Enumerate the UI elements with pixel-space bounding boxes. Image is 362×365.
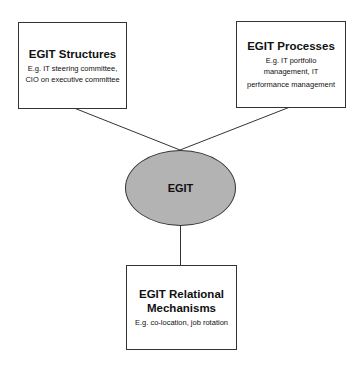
edge-processes-egit bbox=[180, 107, 290, 150]
node-egit-center: EGIT bbox=[125, 150, 236, 226]
node-egit-structures: EGIT Structures E.g. IT steering committ… bbox=[18, 22, 127, 109]
node-egit-processes: EGIT Processes E.g. IT portfolio managem… bbox=[236, 21, 346, 108]
node-subtitle: E.g. IT steering committee, CIO on execu… bbox=[25, 63, 119, 85]
subtitle-line: E.g. co-location, job rotation bbox=[135, 317, 228, 328]
subtitle-line: management, IT bbox=[247, 66, 335, 77]
node-title: EGIT Relational Mechanisms bbox=[139, 287, 224, 315]
subtitle-line: E.g. IT steering committee, bbox=[25, 63, 119, 74]
subtitle-line: performance management bbox=[247, 79, 335, 90]
node-title: EGIT Processes bbox=[247, 39, 335, 53]
edge-structures-egit bbox=[74, 108, 180, 150]
node-subtitle: E.g. co-location, job rotation bbox=[135, 317, 228, 328]
title-line: EGIT Relational bbox=[139, 287, 224, 301]
center-label: EGIT bbox=[168, 182, 194, 194]
title-line: Mechanisms bbox=[139, 301, 224, 315]
node-subtitle: E.g. IT portfolio management, IT perform… bbox=[247, 55, 335, 90]
subtitle-line: CIO on executive committee bbox=[25, 74, 119, 85]
node-title: EGIT Structures bbox=[29, 47, 117, 61]
node-egit-relational-mechanisms: EGIT Relational Mechanisms E.g. co-locat… bbox=[126, 265, 237, 350]
subtitle-line: E.g. IT portfolio bbox=[247, 55, 335, 66]
